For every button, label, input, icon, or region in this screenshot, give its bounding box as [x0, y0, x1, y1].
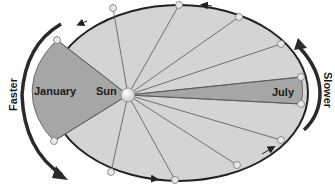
planet-icon	[236, 14, 243, 21]
planet-icon	[108, 169, 115, 176]
slower-arrow-head-icon	[294, 38, 307, 50]
label-slower: Slower	[322, 72, 334, 109]
planet-icon	[54, 37, 61, 44]
label-sun: Sun	[96, 85, 117, 97]
planet-icon	[298, 101, 305, 108]
planet-icon	[278, 137, 285, 144]
kepler-orbit-diagram: January Sun July Faster Slower	[0, 0, 335, 191]
planet-icon	[278, 41, 285, 48]
planet-icon	[172, 177, 179, 184]
orbit-direction-arrow-top	[80, 21, 87, 24]
label-faster: Faster	[7, 77, 19, 111]
planet-icon	[110, 5, 117, 12]
label-july: July	[272, 86, 295, 98]
planet-icon	[298, 74, 305, 81]
label-january: January	[34, 85, 77, 97]
sun-icon	[121, 88, 135, 102]
planet-icon	[51, 138, 58, 145]
planet-icon	[176, 2, 183, 9]
planet-icon	[234, 162, 241, 169]
